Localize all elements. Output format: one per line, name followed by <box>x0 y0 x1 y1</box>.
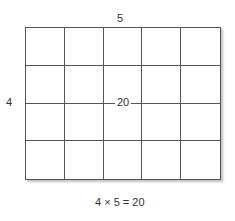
grid-cell <box>26 141 65 179</box>
grid-cell <box>104 104 143 142</box>
grid-cell <box>65 28 104 66</box>
grid-cell <box>26 66 65 104</box>
grid-cell <box>181 141 220 179</box>
equation-caption: 4 × 5 = 20 <box>95 196 145 208</box>
grid-cell <box>104 28 143 66</box>
grid-cell <box>26 28 65 66</box>
grid-cell <box>65 104 104 142</box>
grid-cell <box>26 104 65 142</box>
grid-cell <box>181 66 220 104</box>
grid-cell <box>181 28 220 66</box>
columns-label: 5 <box>117 12 123 24</box>
grid-cell <box>142 141 181 179</box>
grid-cell <box>142 28 181 66</box>
rows-label: 4 <box>6 96 12 108</box>
grid-cell <box>104 141 143 179</box>
grid-cell <box>142 104 181 142</box>
area-label: 20 <box>115 96 131 108</box>
grid-cell <box>65 66 104 104</box>
grid-cell <box>181 104 220 142</box>
grid-cell <box>65 141 104 179</box>
grid-cell <box>142 66 181 104</box>
